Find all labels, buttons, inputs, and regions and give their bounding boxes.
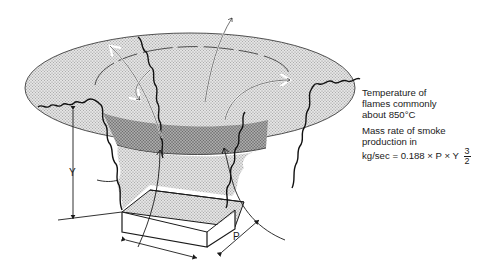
temperature-line-2: flames commonly bbox=[362, 98, 492, 109]
fire-source-box bbox=[122, 190, 244, 247]
mass-rate-annotation: Mass rate of smoke production in kg/sec … bbox=[362, 125, 495, 166]
temperature-line-3: about 850°C bbox=[362, 109, 492, 120]
label-y: Y bbox=[69, 167, 76, 178]
exponent-fraction: 3 2 bbox=[464, 147, 471, 166]
mass-rate-line-1: Mass rate of smoke bbox=[362, 125, 495, 136]
mass-rate-formula: kg/sec = 0.188 × P × Y 3 2 bbox=[362, 147, 495, 166]
formula-text: kg/sec = 0.188 × P × Y bbox=[362, 150, 459, 161]
exponent-denominator: 2 bbox=[464, 157, 471, 166]
temperature-line-1: Temperature of bbox=[362, 87, 492, 98]
mass-rate-line-2: production in bbox=[362, 136, 495, 147]
label-p: P bbox=[233, 231, 240, 242]
temperature-annotation: Temperature of flames commonly about 850… bbox=[362, 87, 492, 120]
